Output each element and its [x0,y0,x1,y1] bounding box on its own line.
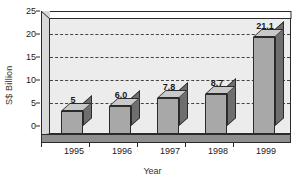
bar-front-face [157,98,179,134]
bar-value-label: 5 [55,95,91,105]
bar-front-face [109,106,131,134]
bars-layer: 56.07.88.721.1 [0,0,305,189]
bar-value-label: 6.0 [103,90,139,100]
x-tick-mark [233,143,234,147]
x-tick-mark [89,143,90,147]
x-tick-mark [41,143,42,147]
x-tick-label: 1996 [112,146,132,156]
x-tick-label: 1998 [208,146,228,156]
x-tick-mark [137,143,138,147]
bar-value-label: 21.1 [247,21,283,31]
x-axis-title: Year [0,166,305,176]
x-tick-label: 1997 [160,146,180,156]
bar-value-label: 8.7 [199,78,235,88]
x-tick-mark [185,143,186,147]
bar-front-face [205,94,227,134]
bar-chart: S$ Billion 0510152025 56.07.88.721.1 199… [0,0,305,189]
bar-front-face [253,37,275,134]
x-tick-label: 1995 [64,146,84,156]
bar-side-face [275,21,284,126]
bar-front-face [61,111,83,134]
x-tick-label: 1999 [256,146,276,156]
bar-value-label: 7.8 [151,82,187,92]
